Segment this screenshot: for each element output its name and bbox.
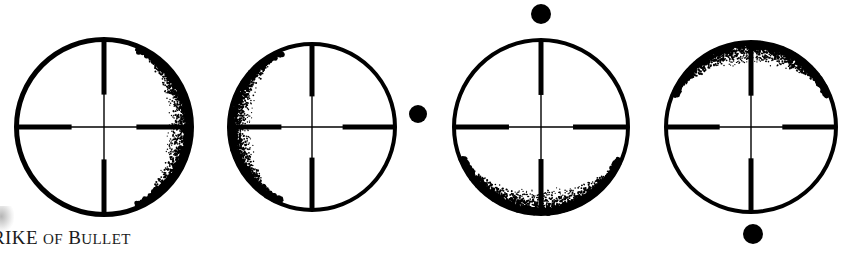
caption-word-strike: RIKE: [0, 227, 38, 248]
bullet-strike-dot: [409, 105, 427, 123]
bullet-strike-dot: [743, 224, 763, 244]
scope-4: [624, 0, 849, 254]
caption-word-bullet-rest: ULLET: [81, 231, 130, 247]
figure-canvas: RIKE OF BULLET: [0, 0, 849, 262]
bullet-strike-dot: [531, 4, 551, 24]
scope-2: [187, 2, 437, 252]
caption-word-bullet-first-letter: B: [68, 227, 81, 248]
caption-word-of: OF: [43, 231, 63, 247]
figure-caption: RIKE OF BULLET: [0, 228, 131, 247]
